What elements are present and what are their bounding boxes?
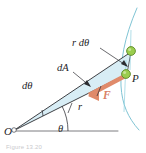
label-arc-length: r dθ [72, 38, 89, 49]
label-point-p: P [132, 73, 139, 84]
figure-container: r dθ dA dθ r θ F P O Figure 13.20 [0, 0, 146, 153]
label-force-vector: F [103, 90, 111, 102]
label-origin: O [4, 126, 12, 137]
particle-dot-p [122, 70, 131, 79]
label-angle-element: dθ [22, 81, 32, 92]
central-force-area-diagram [0, 0, 146, 153]
sector-edge-upper [13, 52, 131, 131]
origin-marker [12, 128, 17, 133]
particle-dot-q [127, 47, 136, 56]
label-radius: r [78, 102, 82, 113]
label-angle: θ [58, 124, 63, 135]
radius-tick-inner [68, 103, 72, 113]
label-area-element: dA [57, 63, 69, 74]
figure-caption: Figure 13.20 [6, 144, 42, 150]
